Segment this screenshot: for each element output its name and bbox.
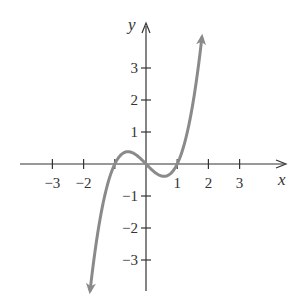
x-tick-label: 2 (205, 175, 213, 191)
y-tick-label: −1 (122, 188, 138, 204)
y-tick-label: 2 (131, 92, 139, 108)
y-tick-label: −2 (122, 220, 138, 236)
x-tick-label: −3 (44, 175, 60, 191)
function-graph: −3−2123321−1−2−3 x y (0, 0, 303, 306)
y-axis-label: y (126, 15, 136, 34)
x-tick-label: −2 (76, 175, 92, 191)
axes (20, 23, 286, 291)
x-tick-label: 1 (173, 175, 181, 191)
y-tick-label: 1 (131, 124, 139, 140)
y-tick-label: −3 (122, 252, 138, 268)
x-axis-label: x (277, 170, 286, 189)
x-tick-label: 3 (236, 175, 244, 191)
y-tick-label: 3 (131, 60, 139, 76)
